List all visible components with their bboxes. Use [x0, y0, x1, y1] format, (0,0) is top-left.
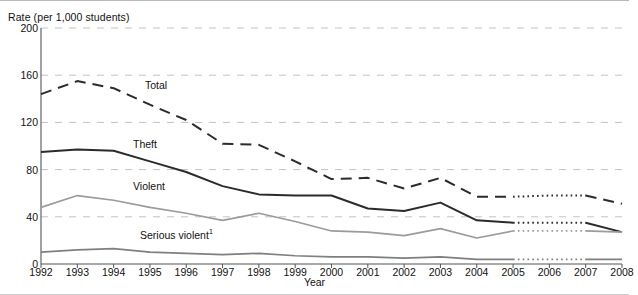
series-label-serious-violent: Serious violent1 [140, 228, 213, 241]
x-axis-title: Year [0, 276, 629, 288]
series-label-violent: Violent [133, 180, 165, 192]
serious-violent-text: Serious violent [140, 229, 209, 241]
footnote-marker-1: 1 [209, 228, 213, 235]
series-label-theft: Theft [133, 138, 157, 150]
series-label-total: Total [145, 79, 167, 91]
